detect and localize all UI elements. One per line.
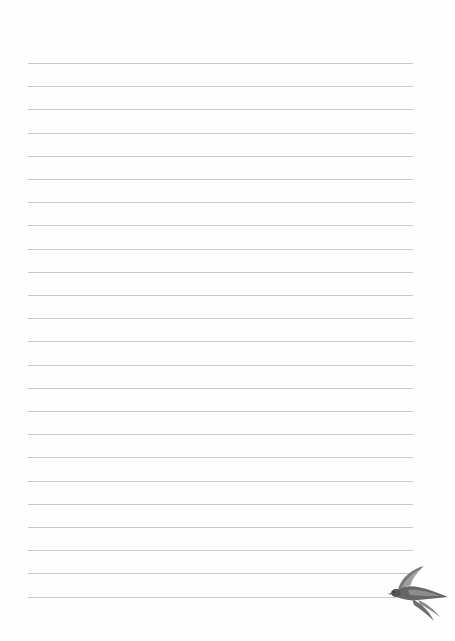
ruled-line [28,225,413,226]
ruled-line [28,133,413,134]
ruled-line [28,295,413,296]
lined-paper [0,0,455,641]
ruled-line [28,434,413,435]
ruled-line [28,156,413,157]
ruled-line [28,109,413,110]
ruled-line [28,202,413,203]
ruled-line [28,318,413,319]
ruled-line [28,249,413,250]
ruled-line [28,481,413,482]
ruled-line [28,597,413,598]
ruled-line [28,272,413,273]
ruled-line [28,457,413,458]
ruled-line [28,573,413,574]
ruled-line [28,63,413,64]
ruled-line [28,341,413,342]
ruled-line [28,179,413,180]
ruled-line [28,411,413,412]
ruled-line [28,86,413,87]
ruled-line [28,388,413,389]
ruled-line [28,527,413,528]
swallow-bird-icon [388,563,450,623]
ruled-line [28,504,413,505]
ruled-line [28,365,413,366]
ruled-line [28,550,413,551]
